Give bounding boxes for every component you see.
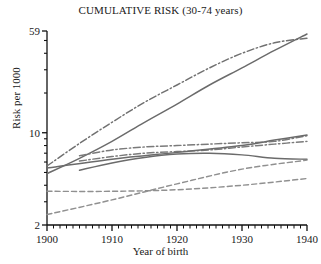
y-tick-label: 59 — [29, 25, 41, 37]
series-line — [47, 38, 307, 166]
x-tick-label: 1920 — [166, 233, 189, 245]
y-tick-label: 2 — [35, 219, 41, 231]
x-tick-label: 1930 — [231, 233, 254, 245]
series-line — [47, 179, 307, 192]
y-axis: 59102 — [29, 25, 47, 231]
chart-figure: CUMULATIVE RISK (30-74 years) Risk per 1… — [0, 0, 321, 264]
x-tick-label: 1900 — [36, 233, 59, 245]
plot-area: 59102 19001910192019301940 — [0, 0, 321, 264]
x-tick-label: 1940 — [296, 233, 319, 245]
data-series-group — [47, 34, 307, 215]
y-tick-label: 10 — [29, 127, 41, 139]
x-axis: 19001910192019301940 — [36, 225, 319, 245]
x-tick-label: 1910 — [101, 233, 124, 245]
